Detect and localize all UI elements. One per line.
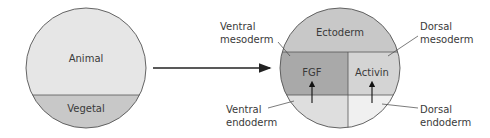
ventral-endoderm-region [270, 95, 348, 135]
dorsal-endoderm-region [348, 95, 428, 135]
diagram-canvas: Animal Vegetal Ectoderm FGF Activin Vent… [0, 0, 490, 138]
svg-text:endoderm: endoderm [420, 117, 471, 128]
activin-label: Activin [355, 67, 389, 78]
svg-text:mesoderm: mesoderm [220, 34, 273, 45]
right-embryo: Ectoderm FGF Activin [270, 0, 428, 135]
svg-text:Dorsal: Dorsal [420, 21, 452, 32]
fgf-label: FGF [302, 67, 322, 78]
svg-text:Ventral: Ventral [220, 21, 256, 32]
animal-region [20, 0, 160, 95]
callout-dorsal-mesoderm: Dorsal mesoderm [388, 21, 473, 56]
vegetal-label: Vegetal [67, 103, 105, 114]
vegetal-region [20, 95, 160, 135]
left-embryo: Animal Vegetal [20, 0, 160, 135]
svg-text:mesoderm: mesoderm [420, 34, 473, 45]
ectoderm-label: Ectoderm [316, 27, 364, 38]
animal-label: Animal [69, 53, 104, 64]
svg-text:Dorsal: Dorsal [420, 104, 452, 115]
callout-ventral-endoderm: Ventral endoderm [226, 101, 294, 128]
callout-dorsal-endoderm: Dorsal endoderm [382, 104, 471, 128]
svg-text:Ventral: Ventral [226, 104, 262, 115]
callout-ventral-mesoderm: Ventral mesoderm [220, 21, 290, 56]
svg-text:endoderm: endoderm [226, 117, 277, 128]
